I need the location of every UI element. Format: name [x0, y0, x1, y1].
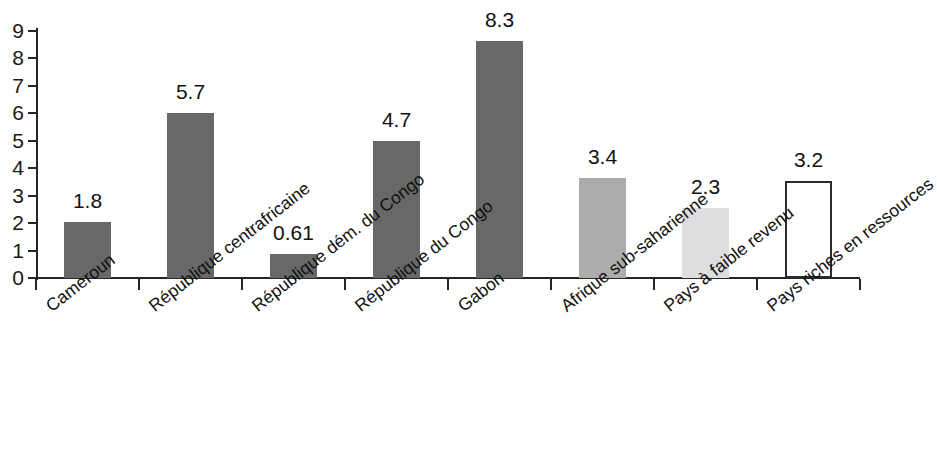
y-axis-tick-label-text: 5 [2, 130, 24, 151]
x-axis-tick [35, 279, 37, 290]
bar-value-label: 3.2 [764, 149, 854, 170]
x-axis-tick [241, 279, 243, 290]
y-axis-tick-label: 4 [0, 157, 24, 178]
x-axis-tick [756, 279, 758, 290]
y-axis-tick-label: 5 [0, 130, 24, 151]
y-axis-tick-label: 8 [0, 47, 24, 68]
y-axis-tick-label-text: 1 [2, 240, 24, 261]
x-axis-tick [859, 279, 861, 290]
x-axis-tick [550, 279, 552, 290]
y-axis-tick-label: 1 [0, 240, 24, 261]
bar-value-label: 4.7 [352, 109, 442, 130]
y-axis-tick-label-text: 6 [2, 102, 24, 123]
x-axis-tick [447, 279, 449, 290]
bar-value-label: 8.3 [455, 9, 545, 30]
y-axis-tick-label-text: 2 [2, 212, 24, 233]
y-axis-tick-label: 3 [0, 185, 24, 206]
y-axis-tick-label-text: 8 [2, 47, 24, 68]
bar [476, 41, 523, 278]
y-axis-tick-label-text: 7 [2, 75, 24, 96]
y-axis-tick-label: 6 [0, 102, 24, 123]
bar-value-label: 5.7 [146, 81, 236, 102]
x-axis-tick [653, 279, 655, 290]
x-axis-tick [138, 279, 140, 290]
y-axis-tick-label-text: 3 [2, 185, 24, 206]
bar-value-label: 2.3 [661, 176, 751, 197]
y-axis-tick-label-text: 4 [2, 157, 24, 178]
bar-value-label: 3.4 [558, 146, 648, 167]
x-axis-tick [344, 279, 346, 290]
y-axis-tick-label: 7 [0, 75, 24, 96]
y-axis-tick-label: 9 [0, 20, 24, 41]
bar-value-label: 0.61 [249, 222, 339, 243]
y-axis-tick-label: 2 [0, 212, 24, 233]
y-axis-tick-label-text: 0 [2, 267, 24, 288]
y-axis-tick-label: 0 [0, 267, 24, 288]
y-axis-tick-label-text: 9 [2, 20, 24, 41]
bar-value-label: 1.8 [43, 190, 133, 211]
